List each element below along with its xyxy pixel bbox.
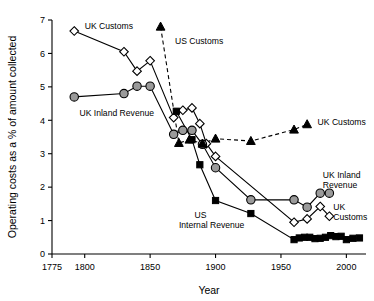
x-tick-label: 1950 xyxy=(271,262,291,272)
data-point-marker xyxy=(350,235,356,241)
ann-us-ir-1: US xyxy=(195,210,207,220)
data-point-marker xyxy=(290,196,298,204)
data-point-marker xyxy=(343,237,349,243)
ann-uk-inland-left: UK Inland Revenue xyxy=(79,108,154,118)
x-tick-label: 1800 xyxy=(75,262,95,272)
ann-uk-customs-r1: UK xyxy=(333,202,345,212)
x-tick-label: 1775 xyxy=(42,262,62,272)
data-point-marker xyxy=(70,93,78,101)
data-point-marker xyxy=(247,196,255,204)
marker-group xyxy=(70,22,363,243)
data-point-marker xyxy=(133,82,141,90)
ann-us-customs: US Customs xyxy=(175,36,223,46)
y-tick-label: 7 xyxy=(40,15,45,25)
data-point-marker xyxy=(211,134,220,142)
data-point-marker xyxy=(356,235,362,241)
ann-uk-inland-r2: Revenue xyxy=(323,180,358,190)
data-point-marker xyxy=(169,130,177,138)
data-point-marker xyxy=(303,203,311,211)
x-tick-label: 1850 xyxy=(140,262,160,272)
y-axis: 01234567 xyxy=(40,15,52,259)
data-point-marker xyxy=(196,119,205,128)
data-point-marker xyxy=(156,22,165,30)
data-point-marker xyxy=(179,126,187,134)
ann-uk-customs-right: UK Customs xyxy=(318,117,366,127)
y-tick-label: 6 xyxy=(40,49,45,59)
chart-canvas: 01234567 177518001850190019502000 UK Cus… xyxy=(0,0,374,301)
data-point-marker xyxy=(120,47,129,56)
ann-uk-customs-r2: Customs xyxy=(333,212,367,222)
x-tick-label: 1900 xyxy=(206,262,226,272)
y-tick-label: 4 xyxy=(40,116,45,126)
data-point-marker xyxy=(173,108,179,114)
y-tick-label: 5 xyxy=(40,82,45,92)
data-point-marker xyxy=(188,126,196,134)
data-point-marker xyxy=(290,125,299,133)
y-tick-label: 1 xyxy=(40,216,45,226)
data-point-marker xyxy=(120,89,128,97)
y-tick-label: 2 xyxy=(40,182,45,192)
data-point-marker xyxy=(188,104,197,113)
data-point-marker xyxy=(189,137,195,143)
ann-uk-customs-top: UK Customs xyxy=(85,21,133,31)
chart-figure: 01234567 177518001850190019502000 UK Cus… xyxy=(0,0,374,301)
data-point-marker xyxy=(146,82,154,90)
data-point-marker xyxy=(212,197,218,203)
x-axis-title: Year xyxy=(198,284,220,296)
y-axis-title: Operating costs as a % of amount collect… xyxy=(6,36,18,239)
x-tick-label: 2000 xyxy=(336,262,356,272)
ann-uk-inland-r1: UK Inland xyxy=(323,170,361,180)
data-point-marker xyxy=(248,210,254,216)
data-point-marker xyxy=(197,162,203,168)
x-axis: 177518001850190019502000 xyxy=(42,254,366,272)
data-point-marker xyxy=(246,136,255,144)
y-tick-label: 0 xyxy=(40,249,45,259)
y-tick-label: 3 xyxy=(40,149,45,159)
data-point-marker xyxy=(303,120,312,128)
data-point-marker xyxy=(70,27,79,36)
data-point-marker xyxy=(211,164,219,172)
ann-us-ir-2: Internal Revenue xyxy=(179,220,245,230)
